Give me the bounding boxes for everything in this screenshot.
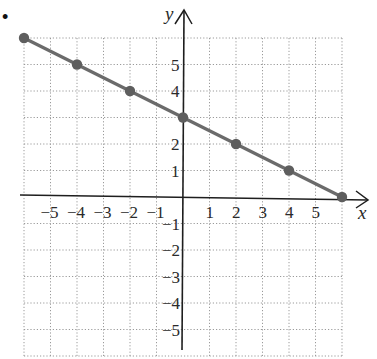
data-point-marker xyxy=(284,165,294,175)
data-point-marker xyxy=(72,59,82,69)
x-tick-label: −4 xyxy=(67,203,86,222)
data-point-marker xyxy=(19,33,29,43)
y-tick-label: 2 xyxy=(171,135,180,154)
x-tick-label: 4 xyxy=(285,203,294,222)
x-tick-label: 5 xyxy=(312,203,321,222)
y-tick-label: −3 xyxy=(162,268,180,287)
y-tick-label: −2 xyxy=(162,241,180,260)
y-axis-label: y xyxy=(163,3,174,24)
x-axis-label: x xyxy=(357,202,367,223)
coordinate-plane: • −5−4−3−2−1123455421−1−2−3−4−5 x y xyxy=(0,0,377,359)
data-point-marker xyxy=(337,192,347,202)
x-tick-label: −3 xyxy=(94,203,112,222)
x-tick-label: −5 xyxy=(41,203,59,222)
x-tick-label: 3 xyxy=(259,203,268,222)
problem-bullet: • xyxy=(2,7,8,27)
y-tick-label: −5 xyxy=(162,321,180,340)
x-tick-label: −2 xyxy=(120,203,138,222)
x-tick-label: 2 xyxy=(232,203,241,222)
y-tick-label: 1 xyxy=(171,162,180,181)
y-axis xyxy=(182,10,184,350)
y-tick-label: −4 xyxy=(162,294,181,313)
data-point-marker xyxy=(231,139,241,149)
x-tick-label: 1 xyxy=(206,203,215,222)
data-point-marker xyxy=(125,86,135,96)
y-tick-label: 4 xyxy=(171,82,180,101)
y-tick-label: 5 xyxy=(171,56,180,75)
data-point-marker xyxy=(178,112,188,122)
y-tick-label: −1 xyxy=(162,215,180,234)
